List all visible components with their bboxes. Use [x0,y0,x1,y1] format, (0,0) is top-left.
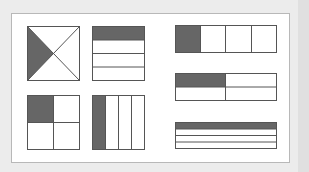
rect-vertical-columns [175,25,277,53]
background-strip [298,0,309,172]
square-horizontal-rows [92,26,145,81]
square-quadrants [27,95,80,150]
rect-horizontal-rows [175,122,277,149]
square-vertical-columns [92,95,145,150]
square-diagonals [27,26,80,81]
rect-quadrants [175,73,277,101]
